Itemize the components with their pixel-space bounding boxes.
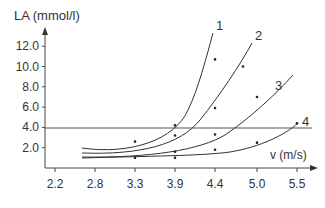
y-tick-label: 4.0 bbox=[22, 120, 39, 134]
x-axis: v (m/s) 2.22.83.33.94.45.05.5 bbox=[45, 148, 318, 191]
data-point-series-1 bbox=[134, 140, 137, 143]
y-axis-label: LA (mmol/l) bbox=[14, 8, 80, 23]
data-point-series-2 bbox=[242, 65, 245, 68]
data-point-series-4 bbox=[296, 122, 299, 125]
curve-labels: 1 2 3 4 bbox=[216, 18, 309, 129]
data-point-series-3 bbox=[256, 96, 259, 99]
x-tick-label: 5.5 bbox=[289, 177, 306, 191]
y-tick-label: 10.0 bbox=[16, 60, 40, 74]
y-tick-label: 12.0 bbox=[16, 39, 40, 53]
curve-1 bbox=[82, 33, 213, 150]
y-tick-label: 2.0 bbox=[22, 141, 39, 155]
data-point-series-4 bbox=[174, 157, 177, 160]
y-axis-arrow-icon bbox=[42, 27, 48, 35]
data-points bbox=[134, 58, 299, 159]
x-axis-label: v (m/s) bbox=[270, 148, 307, 162]
x-tick-label: 4.4 bbox=[207, 177, 224, 191]
data-point-series-2 bbox=[214, 107, 217, 110]
curve-3 bbox=[82, 75, 293, 157]
curves bbox=[82, 33, 298, 158]
x-tick-label: 3.3 bbox=[127, 177, 144, 191]
x-tick-label: 5.0 bbox=[249, 177, 266, 191]
y-axis: LA (mmol/l) 2.04.06.08.010.012.0 bbox=[14, 8, 80, 168]
x-tick-label: 2.8 bbox=[87, 177, 104, 191]
curve-label-3: 3 bbox=[275, 78, 282, 93]
data-point-series-4 bbox=[134, 157, 137, 160]
lactate-velocity-chart: LA (mmol/l) 2.04.06.08.010.012.0 v (m/s)… bbox=[0, 0, 325, 208]
data-point-series-1 bbox=[174, 124, 177, 127]
y-tick-label: 6.0 bbox=[22, 100, 39, 114]
x-axis-arrow-icon bbox=[310, 165, 318, 171]
data-point-series-2 bbox=[174, 134, 177, 137]
curve-2 bbox=[82, 43, 252, 153]
curve-label-2: 2 bbox=[255, 28, 262, 43]
data-point-series-3 bbox=[174, 150, 177, 153]
data-point-series-4 bbox=[214, 148, 217, 151]
x-tick-label: 2.2 bbox=[47, 177, 64, 191]
data-point-series-4 bbox=[256, 141, 259, 144]
curve-label-1: 1 bbox=[216, 18, 223, 33]
data-point-series-3 bbox=[214, 133, 217, 136]
y-tick-label: 8.0 bbox=[22, 80, 39, 94]
curve-label-4: 4 bbox=[302, 114, 309, 129]
x-tick-label: 3.9 bbox=[167, 177, 184, 191]
data-point-series-1 bbox=[214, 58, 217, 61]
